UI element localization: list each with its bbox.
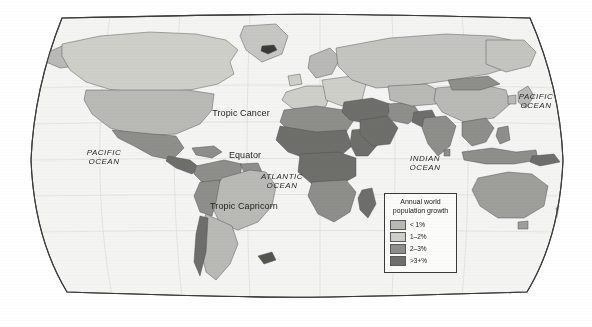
legend-row: >3+% <box>390 256 452 266</box>
label-tropic-cancer: Tropic Cancer <box>196 108 286 119</box>
world-population-growth-map: PACIFIC OCEAN PACIFIC OCEAN ATLANTIC OCE… <box>0 0 592 327</box>
legend-label-3plus: >3+% <box>410 257 427 264</box>
region-tasmania <box>518 221 528 229</box>
region-british-isles <box>288 74 302 86</box>
legend-swatch-lt1 <box>390 220 406 230</box>
legend-swatch-3plus <box>390 256 406 266</box>
label-tropic-capricorn: Tropic Capricorn <box>191 201 297 212</box>
legend-label-lt1: < 1% <box>410 221 425 228</box>
legend-title: Annual world population growth <box>389 198 452 216</box>
map-legend: Annual world population growth < 1% 1–2%… <box>384 193 457 273</box>
legend-label-1-2: 1–2% <box>410 233 427 240</box>
label-atlantic-ocean: ATLANTIC OCEAN <box>250 172 314 191</box>
legend-swatch-1-2 <box>390 232 406 242</box>
label-pacific-ocean-west: PACIFIC OCEAN <box>74 148 134 167</box>
label-indian-ocean: INDIAN OCEAN <box>396 154 454 173</box>
label-pacific-ocean-east: PACIFIC OCEAN <box>506 92 566 111</box>
legend-row: 2–3% <box>390 244 452 254</box>
label-equator: Equator <box>215 150 275 161</box>
legend-row: < 1% <box>390 220 452 230</box>
legend-label-2-3: 2–3% <box>410 245 427 252</box>
legend-swatch-2-3 <box>390 244 406 254</box>
legend-row: 1–2% <box>390 232 452 242</box>
